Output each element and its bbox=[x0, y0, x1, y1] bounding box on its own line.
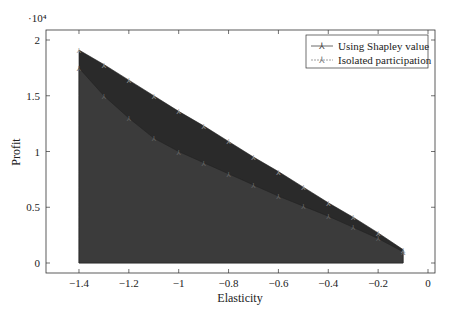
svg-text:−0.2: −0.2 bbox=[368, 277, 388, 289]
data-marker-icon: ⅄ bbox=[126, 115, 132, 123]
svg-text:−1: −1 bbox=[173, 277, 185, 289]
data-marker-icon: ⅄ bbox=[176, 149, 182, 157]
data-marker-icon: ⅄ bbox=[76, 47, 82, 55]
data-marker-icon: ⅄ bbox=[200, 160, 206, 168]
data-marker-icon: ⅄ bbox=[350, 214, 356, 222]
data-marker-icon: ⅄ bbox=[400, 249, 406, 257]
svg-text:−0.4: −0.4 bbox=[318, 277, 338, 289]
data-marker-icon: ⅄ bbox=[225, 171, 231, 179]
legend-marker-shapley-icon: ⅄ bbox=[318, 41, 325, 51]
data-marker-icon: ⅄ bbox=[325, 213, 331, 221]
data-marker-icon: ⅄ bbox=[250, 154, 256, 162]
svg-text:1.5: 1.5 bbox=[26, 90, 40, 102]
data-marker-icon: ⅄ bbox=[350, 224, 356, 232]
data-marker-icon: ⅄ bbox=[76, 65, 82, 73]
data-marker-icon: ⅄ bbox=[300, 203, 306, 211]
data-marker-icon: ⅄ bbox=[200, 123, 206, 131]
svg-text:−1.2: −1.2 bbox=[119, 277, 139, 289]
data-marker-icon: ⅄ bbox=[151, 135, 157, 143]
legend-label-shapley: Using Shapley value bbox=[338, 40, 429, 52]
data-marker-icon: ⅄ bbox=[375, 235, 381, 243]
legend: ⅄ Using Shapley value ⅄ Isolated partici… bbox=[306, 35, 432, 68]
x-axis-label: Elasticity bbox=[217, 291, 262, 305]
data-marker-icon: ⅄ bbox=[151, 93, 157, 101]
legend-marker-isolated-icon: ⅄ bbox=[318, 55, 325, 65]
data-marker-icon: ⅄ bbox=[300, 184, 306, 192]
data-marker-icon: ⅄ bbox=[176, 108, 182, 116]
svg-text:0: 0 bbox=[35, 257, 41, 269]
data-marker-icon: ⅄ bbox=[275, 193, 281, 201]
y-multiplier: ·10⁴ bbox=[28, 12, 47, 24]
svg-text:2: 2 bbox=[35, 34, 41, 46]
svg-text:0: 0 bbox=[425, 277, 431, 289]
data-marker-icon: ⅄ bbox=[275, 169, 281, 177]
data-marker-icon: ⅄ bbox=[250, 182, 256, 190]
svg-text:−0.6: −0.6 bbox=[268, 277, 288, 289]
svg-text:−1.4: −1.4 bbox=[69, 277, 89, 289]
legend-label-isolated: Isolated participation bbox=[338, 54, 432, 66]
data-marker-icon: ⅄ bbox=[101, 93, 107, 101]
y-axis-label: Profit bbox=[9, 138, 23, 166]
svg-text:−0.8: −0.8 bbox=[219, 277, 239, 289]
area-chart: ⅄⅄⅄⅄⅄⅄⅄⅄⅄⅄⅄⅄⅄⅄⅄⅄⅄⅄⅄⅄⅄⅄⅄⅄⅄⅄⅄⅄ −1.4−1.2−1−… bbox=[0, 0, 449, 314]
data-marker-icon: ⅄ bbox=[101, 62, 107, 70]
data-marker-icon: ⅄ bbox=[225, 138, 231, 146]
svg-text:1: 1 bbox=[35, 146, 41, 158]
svg-text:0.5: 0.5 bbox=[26, 201, 40, 213]
data-marker-icon: ⅄ bbox=[325, 200, 331, 208]
data-marker-icon: ⅄ bbox=[126, 77, 132, 85]
